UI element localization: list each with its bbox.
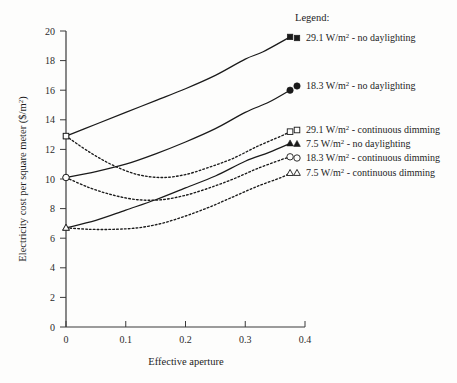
series-end-open-triangle-marker (287, 170, 294, 176)
series-line (66, 143, 290, 227)
x-axis-ticks (66, 321, 305, 327)
legend-entry-5[interactable]: 7.5 W/m2 - continuous dimming (294, 167, 435, 178)
legend-entry-label: 18.3 W/m2 - no daylighting (306, 80, 416, 91)
series-start-open-square-marker (63, 133, 69, 139)
x-tick-label: 0 (64, 334, 69, 345)
series-end-filled-triangle-marker (287, 140, 294, 146)
legend-heading: Legend: (295, 12, 329, 23)
legend-entry-label: 29.1 W/m2 - no daylighting (306, 32, 416, 43)
y-tick-label: 2 (50, 292, 55, 303)
data-series-layer (63, 34, 294, 230)
plot-area: 0246810121416182000.10.20.30.4 (45, 26, 311, 345)
legend-swatch-open-circle-marker (294, 155, 300, 161)
legend-entry-label: 7.5 W/m2 - continuous dimming (306, 167, 435, 178)
legend-swatch-open-square-marker (294, 127, 300, 133)
y-tick-label: 6 (50, 233, 55, 244)
y-tick-label: 20 (45, 26, 55, 37)
series-1 (63, 87, 293, 181)
legend: 29.1 W/m2 - no daylighting18.3 W/m2 - no… (294, 32, 440, 178)
y-tick-label: 14 (45, 114, 55, 125)
x-tick-label: 0.2 (179, 334, 192, 345)
legend-swatch-filled-square-marker (294, 35, 300, 41)
y-tick-label: 12 (45, 144, 55, 155)
legend-tail: - no daylighting (349, 80, 415, 91)
series-start-open-circle-marker (63, 174, 69, 180)
series-end-filled-circle-marker (287, 87, 293, 93)
y-tick-label: 4 (50, 262, 55, 273)
legend-entry-label: 29.1 W/m2 - continuous dimming (306, 124, 440, 135)
series-5 (63, 170, 294, 231)
series-line (66, 157, 290, 200)
series-end-open-circle-marker (287, 154, 293, 160)
legend-tail: - continuous dimming (349, 152, 440, 163)
x-tick-label: 0.1 (120, 334, 133, 345)
chart-figure: 0246810121416182000.10.20.30.4 Electrici… (0, 0, 457, 383)
x-tick-label: 0.3 (239, 334, 252, 345)
legend-tail: - continuous dimming (349, 124, 440, 135)
legend-entry-label: 7.5 W/m2 - no daylighting (306, 138, 411, 149)
legend-tail: - continuous dimming (344, 167, 435, 178)
series-line (66, 90, 290, 177)
y-tick-label: 18 (45, 55, 55, 66)
legend-entry-4[interactable]: 18.3 W/m2 - continuous dimming (294, 152, 440, 163)
legend-entry-label: 18.3 W/m2 - continuous dimming (306, 152, 440, 163)
y-tick-label: 16 (45, 85, 55, 96)
y-axis-title: Electricity cost per square meter ($/m2) (17, 96, 30, 262)
legend-tail: - no daylighting (349, 32, 415, 43)
chart-canvas: 0246810121416182000.10.20.30.4 Electrici… (0, 0, 457, 383)
y-title-tail: ) (17, 96, 29, 100)
series-end-filled-square-marker (287, 34, 293, 40)
series-2 (63, 129, 293, 178)
series-0 (63, 34, 293, 139)
legend-entry-0[interactable]: 29.1 W/m2 - no daylighting (294, 32, 415, 43)
x-axis-title: Effective aperture (148, 356, 224, 367)
legend-entry-3[interactable]: 7.5 W/m2 - no daylighting (294, 138, 411, 149)
legend-swatch-open-triangle-marker (294, 169, 301, 175)
y-tick-label: 0 (50, 322, 55, 333)
y-tick-label: 8 (50, 203, 55, 214)
legend-entry-2[interactable]: 29.1 W/m2 - continuous dimming (294, 124, 440, 135)
series-line (66, 173, 290, 229)
legend-entry-1[interactable]: 18.3 W/m2 - no daylighting (294, 80, 416, 91)
x-tick-label: 0.4 (299, 334, 312, 345)
y-axis-title-group: Electricity cost per square meter ($/m2) (17, 96, 30, 262)
y-tick-label: 10 (45, 174, 55, 185)
legend-swatch-filled-triangle-marker (294, 140, 301, 146)
series-end-open-square-marker (287, 129, 293, 135)
legend-swatch-filled-circle-marker (294, 83, 300, 89)
series-line (66, 37, 290, 136)
legend-tail: - no daylighting (344, 138, 410, 149)
series-4 (63, 154, 293, 201)
